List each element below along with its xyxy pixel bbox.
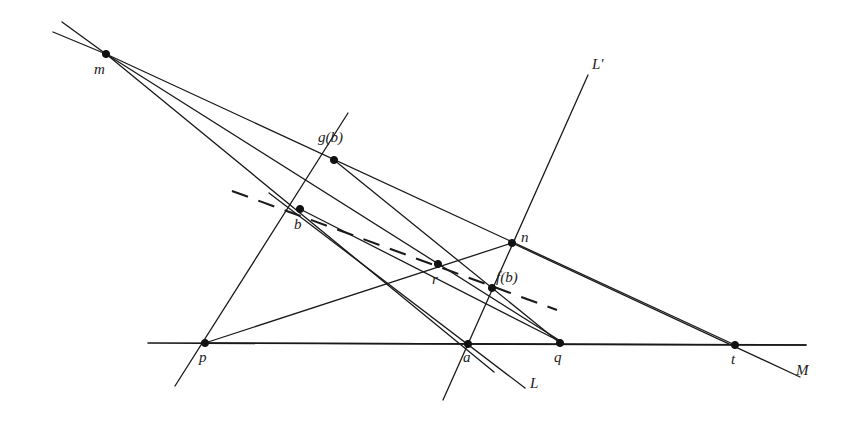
vertex-dot-m	[102, 50, 109, 57]
point-label-gb: g(b)	[318, 130, 343, 145]
point-label-a: a	[463, 350, 471, 365]
vertex-dot-n	[508, 239, 515, 246]
vertex-dot-r	[434, 260, 441, 267]
point-label-m: m	[94, 62, 105, 77]
line-m-through-b-to-q	[106, 54, 562, 342]
vertex-dot-q	[556, 339, 563, 346]
vertex-dot-gb	[330, 156, 337, 163]
point-label-t: t	[731, 352, 735, 367]
vertex-dot-b	[296, 205, 303, 212]
line-p-through-b-gb	[175, 113, 348, 386]
point-label-fb: f(b)	[496, 270, 518, 285]
line-L-through-a	[269, 193, 525, 388]
vertex-dot-a	[464, 340, 471, 347]
line-label-L: L	[530, 376, 538, 391]
solid-line-group	[53, 22, 806, 400]
point-label-b: b	[294, 217, 302, 232]
geometry-canvas	[0, 0, 851, 427]
line-label-L-prime: L'	[592, 57, 604, 72]
point-label-r: r	[432, 272, 438, 287]
vertex-dot-p	[201, 339, 208, 346]
geometry-diagram: mg(b)bnrf(b)paqt L'LM	[0, 0, 851, 427]
vertex-dot-fb	[488, 284, 495, 291]
line-label-M: M	[796, 363, 809, 378]
line-gb-to-q	[334, 160, 560, 343]
line-m-through-gb	[106, 54, 735, 345]
point-label-p: p	[199, 350, 207, 365]
vertex-dot-t	[731, 341, 738, 348]
point-label-q: q	[554, 350, 562, 365]
point-label-n: n	[521, 230, 529, 245]
